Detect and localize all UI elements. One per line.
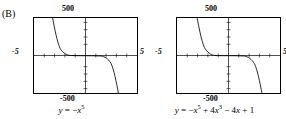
left-panel-top-axis-label: 500 — [62, 5, 74, 13]
right-panel-bottom-axis-label: -500 — [203, 95, 218, 103]
left-panel-left-axis-label: -5 — [12, 48, 19, 56]
right-panel-right-axis-label: 5 — [283, 48, 286, 56]
right-panel-graph-screen — [176, 17, 281, 94]
right-panel: 500 -500 -5 5 — [143, 0, 286, 119]
left-panel-bottom-axis-label: -500 — [60, 95, 75, 103]
left-panel-graph-screen — [33, 17, 138, 94]
left-panel-equation: y = −x5 — [0, 103, 143, 115]
left-panel: 500 -500 -5 5 — [0, 0, 143, 119]
right-panel-plot — [177, 18, 280, 93]
left-panel-plot — [34, 18, 137, 93]
right-panel-equation: y = −x5 + 4x3 − 4x + 1 — [143, 103, 286, 115]
right-panel-top-axis-label: 500 — [205, 5, 217, 13]
figure-container: (B) 500 -500 -5 5 — [0, 0, 286, 119]
right-panel-left-axis-label: -5 — [155, 48, 162, 56]
